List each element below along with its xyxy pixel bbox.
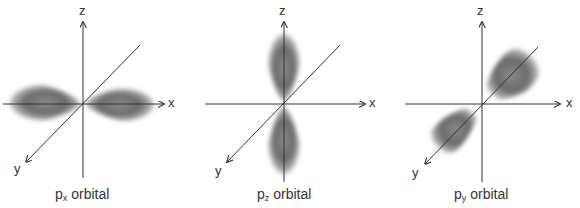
x-axis-label: x	[566, 96, 573, 109]
z-axis-label: z	[477, 4, 484, 17]
py-lobes	[429, 46, 541, 156]
py-orbital-panel: z x y py orbital	[385, 0, 580, 208]
pz-orbital-diagram	[195, 0, 385, 208]
y-axis-label: y	[215, 164, 222, 177]
px-caption: px orbital	[55, 186, 109, 203]
pz-caption: pz orbital	[257, 186, 311, 203]
y-axis-label: y	[412, 166, 419, 179]
py-caption: py orbital	[454, 186, 508, 203]
x-axis-label: x	[369, 96, 376, 109]
px-lobes	[8, 83, 157, 123]
px-orbital-diagram	[0, 0, 195, 208]
z-axis-label: z	[79, 4, 86, 17]
x-axis-label: x	[168, 96, 175, 109]
pz-orbital-panel: z x y pz orbital	[195, 0, 385, 208]
z-axis-label: z	[279, 4, 286, 17]
px-orbital-panel: z x y px orbital	[0, 0, 195, 208]
y-axis-label: y	[14, 162, 21, 175]
